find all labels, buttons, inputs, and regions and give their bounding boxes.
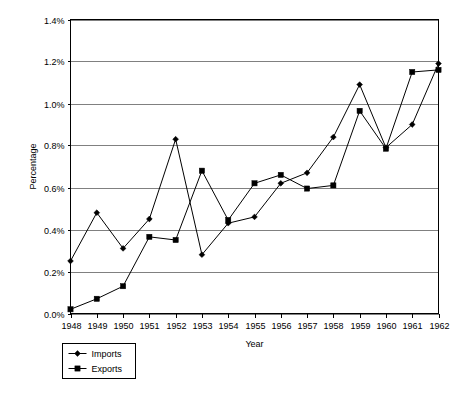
data-point-exports-1959: [357, 108, 362, 113]
y-axis-tick-label: 1.0%: [44, 100, 65, 110]
percentage-by-year-line-chart: 0.0%0.2%0.4%0.6%0.8%1.0%1.2%1.4% 1948194…: [0, 0, 463, 401]
y-axis-title: Percentage: [28, 143, 38, 189]
y-axis-tick-label: 0.0%: [44, 310, 65, 320]
x-axis-tick-label: 1949: [87, 321, 107, 331]
data-point-exports-1957: [304, 186, 309, 191]
data-point-exports-1955: [252, 181, 257, 186]
chart-background: [0, 0, 463, 401]
y-axis-tick-label: 1.4%: [44, 16, 65, 26]
legend-label-exports: Exports: [92, 364, 123, 374]
x-axis-tick-label: 1950: [113, 321, 133, 331]
data-point-exports-1958: [331, 183, 336, 188]
x-axis-tick-label: 1953: [192, 321, 212, 331]
y-axis-tick-label: 0.4%: [44, 226, 65, 236]
x-axis-tick-label: 1962: [429, 321, 449, 331]
y-axis-tick-label: 1.2%: [44, 57, 65, 67]
chart-legend: ImportsExports: [63, 344, 136, 379]
x-axis-tick-label: 1952: [166, 321, 186, 331]
x-axis-tick-label: 1956: [271, 321, 291, 331]
y-axis-tick-label: 0.6%: [44, 184, 65, 194]
data-point-exports-1951: [147, 234, 152, 239]
data-point-exports-1952: [173, 237, 178, 242]
data-point-exports-1960: [383, 146, 388, 151]
y-axis-tick-label: 0.2%: [44, 268, 65, 278]
data-point-exports-1956: [278, 172, 283, 177]
x-axis-tick-label: 1957: [297, 321, 317, 331]
x-axis-tick-label: 1959: [350, 321, 370, 331]
legend-marker-exports: [75, 366, 80, 371]
data-point-exports-1949: [94, 296, 99, 301]
x-axis-tick-label: 1961: [402, 321, 422, 331]
x-axis-tick-label: 1958: [323, 321, 343, 331]
data-point-exports-1953: [199, 168, 204, 173]
data-point-exports-1954: [226, 217, 231, 222]
x-axis-tick-label: 1955: [245, 321, 265, 331]
x-axis-tick-labels: 1948194919501951195219531954195519561957…: [61, 321, 449, 331]
x-axis-title: Year: [245, 339, 263, 349]
data-point-exports-1962: [436, 67, 441, 72]
x-axis-tick-label: 1951: [139, 321, 159, 331]
data-point-exports-1961: [410, 69, 415, 74]
x-axis-tick-label: 1960: [376, 321, 396, 331]
x-axis-tick-label: 1954: [218, 321, 238, 331]
chart-container: 0.0%0.2%0.4%0.6%0.8%1.0%1.2%1.4% 1948194…: [0, 0, 463, 401]
x-axis-tick-label: 1948: [61, 321, 81, 331]
y-axis-tick-label: 0.8%: [44, 141, 65, 151]
legend-label-imports: Imports: [92, 349, 123, 359]
data-point-exports-1950: [120, 284, 125, 289]
data-point-exports-1948: [68, 307, 73, 312]
